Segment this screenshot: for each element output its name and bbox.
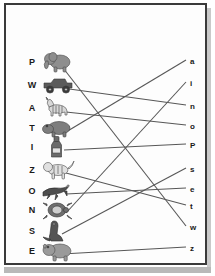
- rhino-icon: [41, 240, 75, 262]
- left-letter: I: [26, 142, 38, 152]
- list-item[interactable]: I: [26, 136, 75, 158]
- list-item[interactable]: S: [26, 220, 75, 242]
- left-letter: S: [26, 226, 38, 236]
- left-letter: P: [26, 57, 38, 67]
- left-letter: A: [26, 103, 38, 113]
- list-item[interactable]: Z: [26, 159, 75, 181]
- right-letter[interactable]: i: [190, 80, 200, 88]
- bottle-icon: [41, 136, 75, 158]
- list-item[interactable]: N: [26, 199, 75, 221]
- right-letter[interactable]: z: [190, 245, 200, 253]
- list-item[interactable]: E: [26, 240, 75, 262]
- elephant-icon: [41, 51, 75, 73]
- right-letter[interactable]: o: [190, 123, 200, 131]
- zebra-icon: [41, 97, 75, 119]
- right-letter[interactable]: t: [190, 203, 200, 211]
- turtle-icon: [41, 199, 75, 221]
- tiger-icon: [41, 159, 75, 181]
- right-letter[interactable]: e: [190, 186, 200, 194]
- right-letter[interactable]: a: [190, 58, 200, 66]
- left-letter: T: [26, 123, 38, 133]
- left-letter: E: [26, 246, 38, 256]
- list-item[interactable]: P: [26, 51, 75, 73]
- seal-icon: [41, 220, 75, 242]
- list-item[interactable]: A: [26, 97, 75, 119]
- right-letter[interactable]: n: [190, 103, 200, 111]
- right-letter[interactable]: P: [190, 142, 200, 150]
- left-letter: Z: [26, 165, 38, 175]
- left-letter: N: [26, 205, 38, 215]
- list-item[interactable]: W: [26, 74, 75, 96]
- left-letter: O: [26, 186, 38, 196]
- worksheet-page: P W: [0, 0, 215, 276]
- jeep-icon: [41, 74, 75, 96]
- right-letter[interactable]: s: [190, 166, 200, 174]
- left-letter: W: [26, 80, 38, 90]
- matching-area: P W: [0, 0, 215, 276]
- right-letter[interactable]: w: [190, 224, 200, 232]
